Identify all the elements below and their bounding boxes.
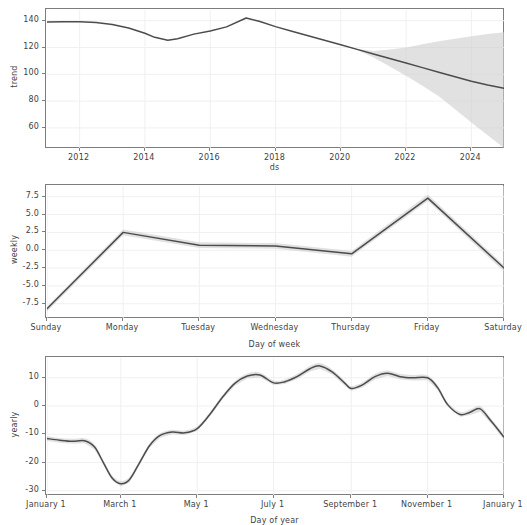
yearly-y-tick-mark (42, 462, 45, 463)
yearly-x-axis-label: Day of year (18, 516, 527, 525)
yearly-x-tick-mark (120, 495, 121, 498)
yearly-x-tick-mark (273, 495, 274, 498)
weekly-axes (45, 184, 504, 318)
weekly-x-tick-mark (503, 318, 504, 321)
weekly-y-tick-mark (42, 196, 45, 197)
weekly-y-tick-label: -5.0 (23, 280, 39, 289)
yearly-y-tick-label: 0 (34, 400, 39, 409)
weekly-y-tick-mark (42, 267, 45, 268)
trend-y-tick-mark (42, 100, 45, 101)
trend-y-tick-label: 120 (23, 42, 39, 51)
trend-x-axis-label: ds (18, 163, 527, 172)
weekly-x-tick-mark (122, 318, 123, 321)
trend-y-tick-mark (42, 20, 45, 21)
yearly-x-tick-mark (503, 495, 504, 498)
yearly-y-tick-mark (42, 490, 45, 491)
yearly-y-tick-mark (42, 377, 45, 378)
weekly-y-tick-label: 0.0 (26, 244, 39, 253)
weekly-x-tick-mark (46, 318, 47, 321)
weekly-y-tick-mark (42, 231, 45, 232)
trend-y-tick-label: 100 (23, 68, 39, 77)
weekly-y-tick-mark (42, 303, 45, 304)
yearly-y-tick-mark (42, 433, 45, 434)
trend-x-tick-mark (79, 148, 80, 151)
weekly-x-tick-mark (275, 318, 276, 321)
trend-y-axis-label: trend (10, 57, 19, 97)
yearly-x-tick-mark (427, 495, 428, 498)
trend-panel: trend ds 6080100120140201220142016201820… (0, 0, 514, 178)
yearly-x-tick-label: January 1 (453, 500, 527, 509)
trend-x-tick-mark (275, 148, 276, 151)
yearly-y-tick-label: 10 (28, 372, 39, 381)
trend-y-tick-mark (42, 73, 45, 74)
trend-y-tick-label: 140 (23, 15, 39, 24)
trend-x-tick-mark (405, 148, 406, 151)
trend-y-tick-mark (42, 47, 45, 48)
weekly-y-tick-label: 5.0 (26, 209, 39, 218)
yearly-x-tick-mark (350, 495, 351, 498)
trend-y-tick-mark (42, 127, 45, 128)
trend-x-tick-mark (340, 148, 341, 151)
yearly-x-tick-mark (196, 495, 197, 498)
trend-y-tick-label: 60 (28, 122, 39, 131)
weekly-y-tick-label: 7.5 (26, 191, 39, 200)
yearly-y-axis-label: yearly (10, 404, 19, 444)
weekly-y-tick-label: 2.5 (26, 226, 39, 235)
trend-x-tick-mark (144, 148, 145, 151)
yearly-y-tick-label: -10 (25, 428, 39, 437)
weekly-y-axis-label: weekly (10, 230, 19, 270)
weekly-x-tick-mark (351, 318, 352, 321)
weekly-y-tick-mark (42, 249, 45, 250)
yearly-y-tick-mark (42, 405, 45, 406)
trend-x-tick-mark (209, 148, 210, 151)
weekly-x-tick-mark (198, 318, 199, 321)
yearly-panel: yearly Day of year -30-20-10010January 1… (0, 350, 514, 525)
trend-axes (45, 8, 504, 148)
trend-y-tick-label: 80 (28, 95, 39, 104)
weekly-x-axis-label: Day of week (18, 340, 527, 349)
yearly-y-tick-label: -30 (25, 485, 39, 494)
trend-x-tick-label: 2024 (420, 153, 520, 162)
yearly-x-tick-mark (46, 495, 47, 498)
trend-x-tick-mark (470, 148, 471, 151)
yearly-axes (45, 356, 504, 495)
weekly-y-tick-mark (42, 214, 45, 215)
weekly-y-tick-label: -7.5 (23, 298, 39, 307)
weekly-y-tick-label: -2.5 (23, 262, 39, 271)
yearly-y-tick-label: -20 (25, 457, 39, 466)
weekly-panel: weekly Day of week -7.5-5.0-2.50.02.55.0… (0, 178, 514, 350)
weekly-x-tick-label: Saturday (453, 323, 527, 332)
weekly-x-tick-mark (427, 318, 428, 321)
weekly-y-tick-mark (42, 285, 45, 286)
